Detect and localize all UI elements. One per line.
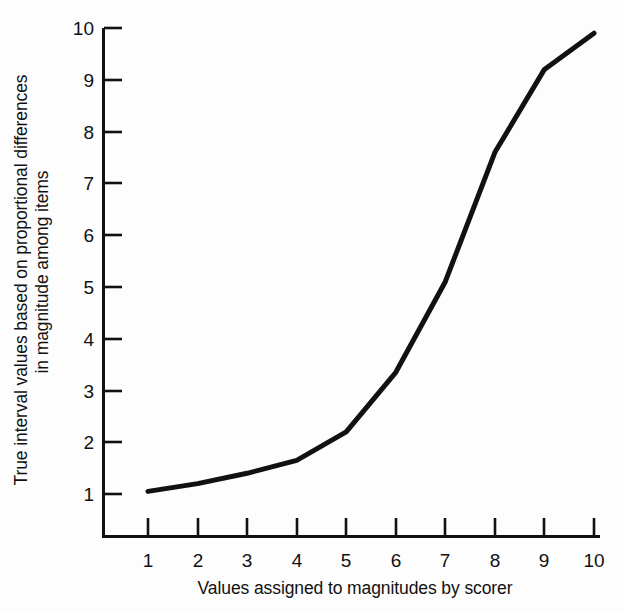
chart-figure: True interval values based on proportion… xyxy=(0,0,625,611)
data-series-line xyxy=(148,33,594,491)
x-axis-ticks xyxy=(148,518,594,535)
y-axis-ticks xyxy=(104,28,122,494)
plot-area xyxy=(0,0,625,611)
